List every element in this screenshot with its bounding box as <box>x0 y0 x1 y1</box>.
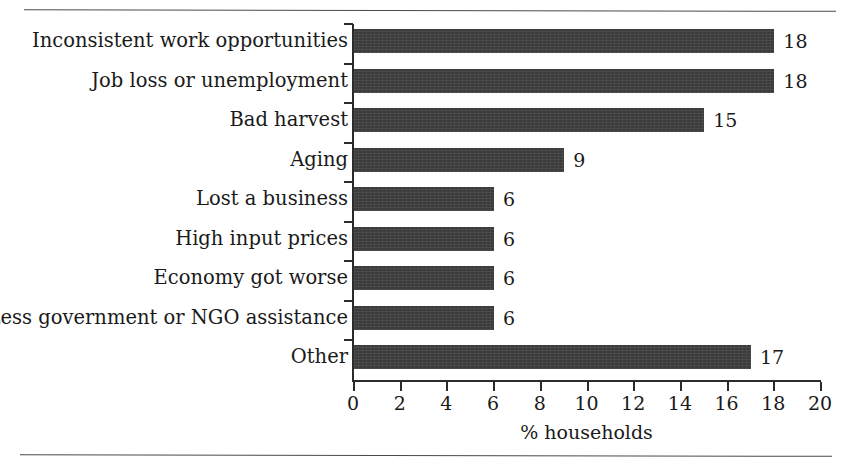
x-axis-tick-label: 12 <box>609 392 657 414</box>
bar <box>354 306 494 330</box>
category-label: Other <box>291 346 348 368</box>
y-axis-tick <box>344 142 353 144</box>
x-axis-tick-label: 8 <box>516 392 564 414</box>
y-axis-tick <box>344 63 353 65</box>
bar <box>354 345 751 369</box>
x-axis-tick <box>493 382 495 391</box>
x-axis-tick-label: 4 <box>422 392 470 414</box>
bar-row: Aging9 <box>0 148 850 172</box>
bar <box>354 69 774 93</box>
bar <box>354 29 774 53</box>
x-axis-tick-label: 6 <box>469 392 517 414</box>
bar-value-label: 6 <box>503 228 515 250</box>
x-axis-tick <box>727 382 729 391</box>
category-label: Aging <box>290 149 348 171</box>
bar-value-label: 6 <box>503 307 515 329</box>
x-axis-tick <box>820 382 822 391</box>
bar-row: Other17 <box>0 345 850 369</box>
y-axis-tick <box>344 339 353 341</box>
bar-row: Bad harvest15 <box>0 108 850 132</box>
bar-value-label: 17 <box>760 346 784 368</box>
bar-value-label: 18 <box>783 70 807 92</box>
x-axis-tick <box>680 382 682 391</box>
bar <box>354 227 494 251</box>
x-axis-tick-label: 20 <box>796 392 844 414</box>
bar-value-label: 6 <box>503 188 515 210</box>
x-axis-tick <box>633 382 635 391</box>
x-axis-tick-label: 0 <box>329 392 377 414</box>
category-label: Job loss or unemployment <box>91 70 348 92</box>
x-axis-tick <box>353 382 355 391</box>
bar-row: Job loss or unemployment18 <box>0 69 850 93</box>
x-axis-tick <box>540 382 542 391</box>
bar <box>354 266 494 290</box>
category-label: Economy got worse <box>154 267 348 289</box>
bar-value-label: 9 <box>573 149 585 171</box>
category-label: Bad harvest <box>229 109 348 131</box>
bar-row: Economy got worse6 <box>0 266 850 290</box>
category-label: Inconsistent work opportunities <box>32 30 348 52</box>
x-axis-tick-label: 2 <box>376 392 424 414</box>
category-label: Less government or NGO assistance <box>0 307 348 329</box>
bar-row: Inconsistent work opportunities18 <box>0 29 850 53</box>
bar-value-label: 15 <box>713 109 737 131</box>
x-axis-title: % households <box>352 421 821 443</box>
x-axis-tick-label: 14 <box>656 392 704 414</box>
bar-row: Lost a business6 <box>0 187 850 211</box>
x-axis-tick <box>587 382 589 391</box>
category-label: Lost a business <box>196 188 348 210</box>
bar-row: High input prices6 <box>0 227 850 251</box>
y-axis-tick <box>344 102 353 104</box>
category-label: High input prices <box>175 228 348 250</box>
plot-area: Inconsistent work opportunities18Job los… <box>0 0 850 476</box>
x-axis-tick-label: 10 <box>563 392 611 414</box>
x-axis-tick <box>773 382 775 391</box>
bar-chart-figure: Inconsistent work opportunities18Job los… <box>0 0 850 476</box>
y-axis-tick <box>344 221 353 223</box>
x-axis-tick-label: 16 <box>703 392 751 414</box>
x-axis-tick-label: 18 <box>749 392 797 414</box>
bar-value-label: 6 <box>503 267 515 289</box>
bar <box>354 148 564 172</box>
bar-row: Less government or NGO assistance6 <box>0 306 850 330</box>
y-axis-tick <box>344 260 353 262</box>
x-axis-tick <box>400 382 402 391</box>
y-axis-tick <box>344 23 353 25</box>
y-axis-tick <box>344 300 353 302</box>
x-axis-tick <box>446 382 448 391</box>
bar <box>354 187 494 211</box>
bar <box>354 108 704 132</box>
y-axis-tick <box>344 181 353 183</box>
bar-value-label: 18 <box>783 30 807 52</box>
